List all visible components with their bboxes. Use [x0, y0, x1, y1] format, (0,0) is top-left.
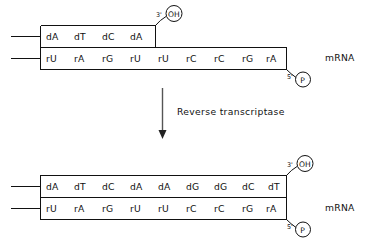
mrna-base: rG — [102, 53, 113, 64]
five-prime-label: 5' — [287, 73, 293, 81]
enzyme-label: Reverse transcriptase — [177, 106, 285, 117]
oh-group-label: OH — [168, 10, 180, 19]
mrna-base: rC — [214, 53, 225, 64]
transition-arrow-head-icon — [159, 130, 167, 139]
mrna-base: rG — [242, 203, 253, 214]
dna-base: dA — [46, 31, 59, 42]
mrna-base: rU — [158, 53, 169, 64]
mrna-base: rA — [266, 53, 277, 64]
dna-base: dA — [46, 181, 59, 192]
mrna-base: rA — [266, 203, 277, 214]
mrna-side-label: mRNA — [325, 202, 355, 213]
mrna-base: rC — [186, 203, 197, 214]
dna-base: dG — [186, 181, 199, 192]
mrna-base: rU — [130, 203, 141, 214]
dna-base: dA — [130, 181, 143, 192]
dna-base-row-after: dA dT dC dA dA dG dG dC dT — [46, 181, 280, 192]
phosphate-group-label: P — [300, 76, 305, 85]
five-prime-phosphate-terminus-after: P 5' — [287, 220, 311, 238]
mrna-base: rU — [130, 53, 141, 64]
panel-before: dA dT dC dA rU rA rG rU rU rC rC rG rA — [11, 6, 355, 88]
reverse-transcriptase-diagram: dA dT dC dA rU rA rG rU rU rC rC rG rA — [0, 0, 378, 241]
mrna-base-row-before: rU rA rG rU rU rC rC rG rA — [46, 53, 277, 64]
dna-base: dG — [214, 181, 227, 192]
three-prime-oh-terminus-before: OH 3' — [156, 6, 183, 26]
dna-base: dA — [130, 31, 143, 42]
panel-after: dA dT dC dA dA dG dG dC dT rU rA rG rU r… — [11, 156, 355, 238]
dna-base: dT — [74, 31, 86, 42]
mrna-side-label: mRNA — [325, 52, 355, 63]
dna-base: dC — [102, 181, 115, 192]
reverse-transcriptase-step: Reverse transcriptase — [159, 88, 285, 139]
mrna-base: rA — [74, 53, 85, 64]
mrna-base: rG — [242, 53, 253, 64]
five-prime-phosphate-terminus-before: P 5' — [287, 70, 311, 88]
oh-group-label: OH — [299, 160, 311, 169]
mrna-base: rC — [214, 203, 225, 214]
dna-base-row-before: dA dT dC dA — [46, 31, 143, 42]
mrna-base: rC — [186, 53, 197, 64]
mrna-base: rU — [158, 203, 169, 214]
mrna-base: rU — [46, 53, 57, 64]
five-prime-label: 5' — [287, 223, 293, 231]
dna-base: dC — [102, 31, 115, 42]
dna-base: dT — [268, 181, 280, 192]
dna-base: dA — [158, 181, 171, 192]
figure-canvas: dA dT dC dA rU rA rG rU rU rC rC rG rA — [0, 0, 378, 241]
mrna-base: rG — [102, 203, 113, 214]
mrna-base: rA — [74, 203, 85, 214]
dna-base: dT — [74, 181, 86, 192]
three-prime-oh-terminus-after: OH 3' — [287, 156, 314, 176]
three-prime-label: 3' — [287, 161, 293, 169]
mrna-base: rU — [46, 203, 57, 214]
mrna-base-row-after: rU rA rG rU rU rC rC rG rA — [46, 203, 277, 214]
phosphate-group-label: P — [300, 226, 305, 235]
dna-base: dC — [242, 181, 255, 192]
three-prime-label: 3' — [156, 11, 162, 19]
